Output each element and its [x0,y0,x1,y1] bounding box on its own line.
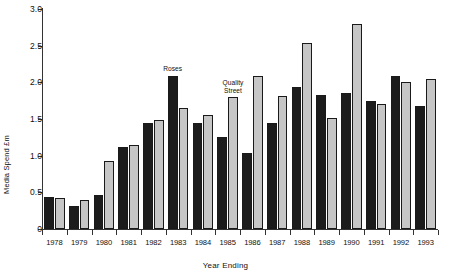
bar-1991-dark [366,101,376,229]
x-tick-label-1980: 1980 [91,238,117,247]
x-tick-mark [389,230,390,235]
bar-1988-dark [292,87,302,229]
bar-1978-light [55,198,65,229]
x-tick-label-1983: 1983 [165,238,191,247]
bar-1989-dark [316,95,326,229]
bar-1978-dark [44,197,54,229]
x-tick-mark [42,230,43,235]
bar-1981-dark [118,147,128,229]
bar-1983-light [179,108,189,229]
x-tick-label-1989: 1989 [314,238,340,247]
x-tick-label-1991: 1991 [363,238,389,247]
x-tick-mark [116,230,117,235]
y-tick-label: 1.0 [6,151,42,161]
bar-1989-light [327,118,337,229]
bars-container [42,9,438,229]
x-tick-mark [240,230,241,235]
x-tick-mark [141,230,142,235]
bar-1991-light [377,104,387,229]
x-tick-label-1993: 1993 [413,238,439,247]
bar-1987-dark [267,123,277,229]
annotation-roses: Roses [153,65,193,72]
x-tick-mark [364,230,365,235]
x-axis-title: Year Ending [0,261,451,270]
bar-1982-dark [143,123,153,229]
x-tick-label-1986: 1986 [239,238,265,247]
y-axis-ticks: 00.51.01.52.02.53.0 [0,0,42,277]
bar-1982-light [154,120,164,229]
bar-1990-light [352,24,362,229]
bar-1985-light [228,97,238,229]
y-tick-label: 1.5 [6,114,42,124]
bar-1980-dark [94,195,104,229]
bar-1984-dark [193,123,203,229]
x-tick-label-1990: 1990 [338,238,364,247]
bar-1993-light [426,79,436,229]
bar-1988-light [302,43,312,229]
bar-chart: Media Spend £m 00.51.01.52.02.53.0 Year … [0,0,451,277]
x-tick-mark [265,230,266,235]
y-tick-label: 0 [6,224,42,234]
bar-1980-light [104,161,114,229]
y-tick-label: 3.0 [6,4,42,14]
bar-1983-dark [168,76,178,229]
x-tick-mark [339,230,340,235]
x-tick-mark [413,230,414,235]
x-tick-mark [290,230,291,235]
x-tick-label-1982: 1982 [140,238,166,247]
bar-1979-light [80,200,90,229]
x-tick-label-1988: 1988 [289,238,315,247]
bar-1979-dark [69,206,79,229]
y-tick-label: 0.5 [6,187,42,197]
x-tick-label-1978: 1978 [41,238,67,247]
x-tick-mark [191,230,192,235]
bar-1984-light [203,115,213,229]
x-tick-mark [92,230,93,235]
x-tick-label-1985: 1985 [215,238,241,247]
x-tick-mark [314,230,315,235]
annotation-quality-street: Quality Street [213,79,253,94]
x-tick-label-1979: 1979 [66,238,92,247]
x-tick-mark [67,230,68,235]
x-tick-mark [166,230,167,235]
bar-1985-dark [217,137,227,229]
y-tick-label: 2.0 [6,77,42,87]
x-tick-mark [438,230,439,235]
bar-1987-light [278,96,288,229]
bar-1993-dark [415,106,425,229]
x-tick-label-1987: 1987 [264,238,290,247]
bar-1986-light [253,76,263,229]
x-tick-label-1992: 1992 [388,238,414,247]
bar-1990-dark [341,93,351,229]
x-tick-label-1984: 1984 [190,238,216,247]
bar-1986-dark [242,153,252,229]
bar-1981-light [129,145,139,229]
y-tick-label: 2.5 [6,41,42,51]
x-tick-mark [215,230,216,235]
x-tick-label-1981: 1981 [116,238,142,247]
bar-1992-dark [391,76,401,229]
bar-1992-light [401,82,411,229]
